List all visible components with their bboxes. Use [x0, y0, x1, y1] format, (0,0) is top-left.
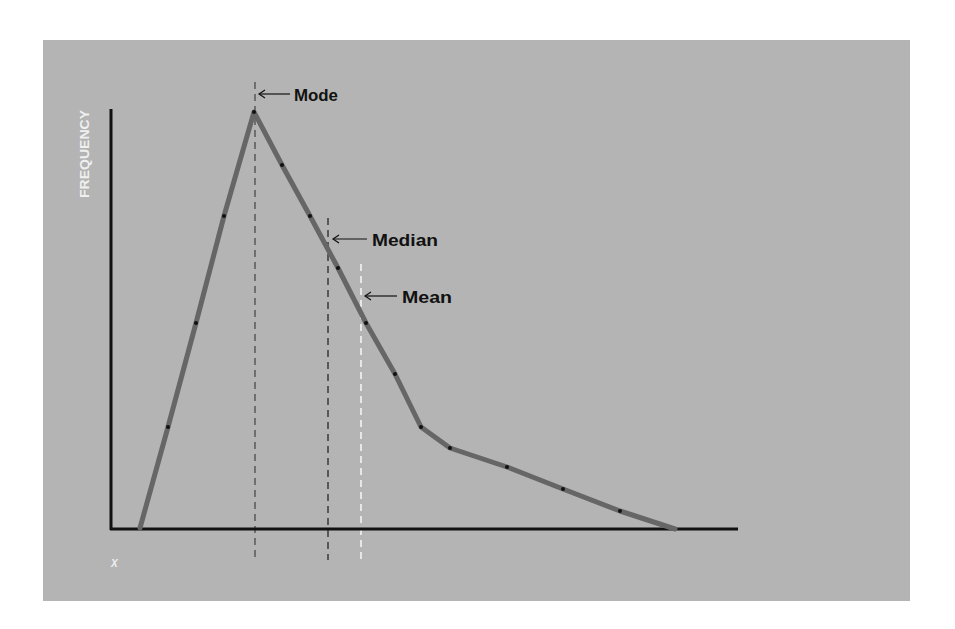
frequency-curve [140, 112, 675, 529]
skewed-distribution-chart: Mode Median Mean FREQUENCY X [0, 0, 955, 629]
mode-arrow-icon [259, 90, 290, 98]
mode-label: Mode [294, 86, 338, 105]
y-axis-label: FREQUENCY [78, 110, 92, 198]
mean-arrow-icon [365, 292, 397, 300]
data-points [166, 110, 622, 513]
median-label: Median [372, 231, 438, 250]
median-arrow-icon [333, 235, 367, 243]
mean-label: Mean [402, 288, 452, 307]
x-axis-label: X [110, 558, 119, 569]
